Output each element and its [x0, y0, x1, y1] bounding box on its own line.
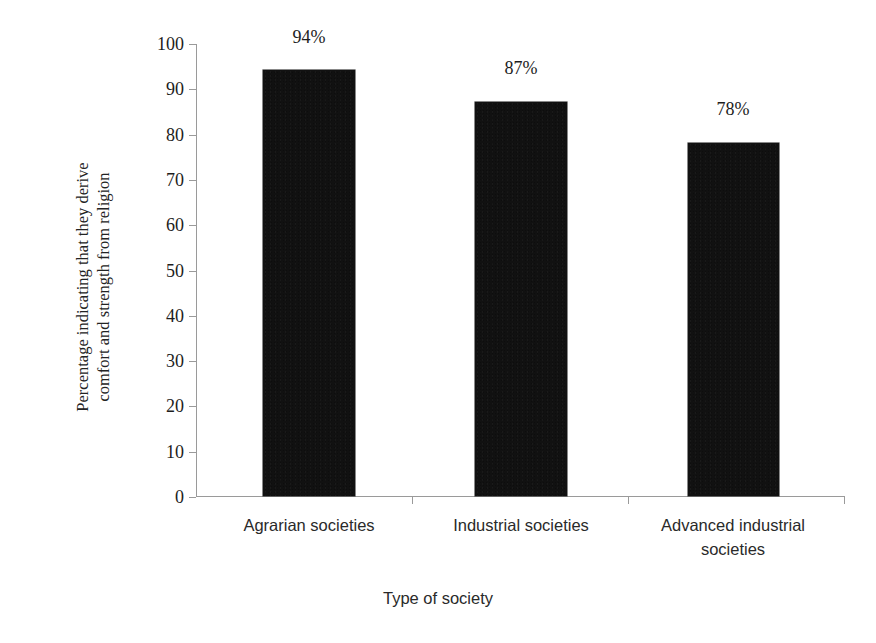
x-axis-title: Type of society: [0, 589, 876, 608]
bar-industrial-societies: [475, 102, 567, 496]
y-tick-label-0: 0: [175, 487, 184, 508]
bar-chart-figure: Percentage indicating that they derive c…: [0, 0, 876, 643]
x-category-label-industrial: Industrial societies: [453, 513, 589, 537]
y-tick-label-40: 40: [166, 305, 184, 326]
y-axis-title-line-1: Percentage indicating that they derive: [72, 82, 93, 492]
plot-area: 0 10 20 30 40 50 60 70 80 90 100 94% 87%…: [196, 44, 845, 497]
bar-advanced-industrial-societies: [688, 143, 779, 496]
x-category-label-advanced-industrial-line-1: Advanced industrial: [661, 513, 805, 537]
x-category-label-agrarian-line-1: Agrarian societies: [243, 513, 374, 537]
bar-agrarian-societies: [263, 70, 355, 496]
y-tick-label-30: 30: [166, 351, 184, 372]
y-tick-label-70: 70: [166, 169, 184, 190]
x-axis-divider-2: [628, 496, 629, 504]
y-axis-title-line-2: comfort and strength from religion: [93, 82, 114, 492]
y-tick-label-80: 80: [166, 124, 184, 145]
y-axis-line: [196, 44, 197, 497]
x-category-label-industrial-line-1: Industrial societies: [453, 513, 589, 537]
y-tick-label-90: 90: [166, 79, 184, 100]
y-tick-label-60: 60: [166, 215, 184, 236]
bar-value-label-industrial: 87%: [505, 58, 538, 79]
x-axis-divider-3: [844, 496, 845, 504]
y-axis-title: Percentage indicating that they derive c…: [72, 82, 114, 492]
y-tick-label-50: 50: [166, 260, 184, 281]
bar-value-label-agrarian: 94%: [293, 27, 326, 48]
y-tick-label-100: 100: [157, 34, 184, 55]
x-category-label-advanced-industrial: Advanced industrial societies: [661, 513, 805, 561]
x-axis-line: [196, 496, 845, 497]
bar-value-label-advanced-industrial: 78%: [717, 99, 750, 120]
y-tick-label-20: 20: [166, 396, 184, 417]
x-category-label-advanced-industrial-line-2: societies: [661, 537, 805, 561]
x-category-label-agrarian: Agrarian societies: [243, 513, 374, 537]
y-tick-label-10: 10: [166, 441, 184, 462]
x-axis-divider-1: [412, 496, 413, 504]
